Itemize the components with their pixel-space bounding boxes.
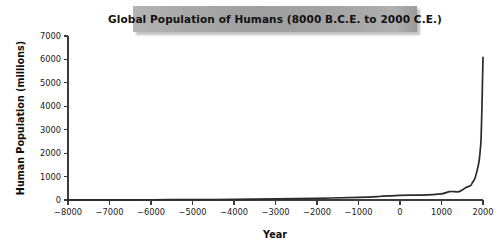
x-tick-label: −6000 bbox=[137, 207, 165, 217]
y-axis-ticks: 01000200030004000500060007000 bbox=[40, 31, 68, 205]
y-axis-label: Human Population (millions) bbox=[15, 41, 26, 195]
y-tick-label: 4000 bbox=[40, 101, 61, 111]
x-tick-label: 1000 bbox=[431, 207, 452, 217]
y-tick-label: 6000 bbox=[40, 54, 61, 64]
y-tick-label: 1000 bbox=[40, 172, 61, 182]
x-tick-label: −2000 bbox=[303, 207, 331, 217]
y-tick-label: 0 bbox=[56, 195, 61, 205]
x-tick-label: 0 bbox=[397, 207, 402, 217]
x-tick-label: −8000 bbox=[54, 207, 82, 217]
x-tick-label: −4000 bbox=[220, 207, 248, 217]
y-tick-label: 2000 bbox=[40, 148, 61, 158]
y-tick-label: 7000 bbox=[40, 31, 61, 41]
x-tick-label: −5000 bbox=[178, 207, 206, 217]
population-curve bbox=[68, 57, 483, 200]
x-tick-label: −3000 bbox=[261, 207, 289, 217]
x-axis-ticks: −8000−7000−6000−5000−4000−3000−2000−1000… bbox=[54, 200, 494, 217]
population-line-chart: 01000200030004000500060007000 −8000−7000… bbox=[0, 0, 503, 247]
x-tick-label: −7000 bbox=[95, 207, 123, 217]
chart-container: 01000200030004000500060007000 −8000−7000… bbox=[0, 0, 503, 247]
x-axis-label: Year bbox=[262, 229, 287, 240]
x-tick-label: −1000 bbox=[344, 207, 372, 217]
y-tick-label: 3000 bbox=[40, 125, 61, 135]
x-tick-label: 2000 bbox=[472, 207, 493, 217]
y-tick-label: 5000 bbox=[40, 78, 61, 88]
